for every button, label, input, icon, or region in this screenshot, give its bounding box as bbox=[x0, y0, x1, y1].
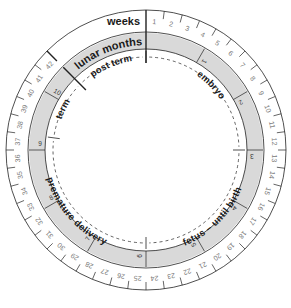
week-tick bbox=[251, 230, 257, 235]
week-label: 42 bbox=[44, 60, 54, 71]
week-tick bbox=[25, 216, 32, 220]
phase-separator bbox=[48, 137, 60, 139]
week-tick bbox=[268, 96, 275, 99]
week-tick bbox=[35, 230, 41, 235]
week-label: 24 bbox=[150, 275, 158, 283]
week-tick bbox=[35, 65, 41, 70]
week-tick bbox=[110, 278, 112, 286]
week-label: 23 bbox=[166, 272, 175, 280]
week-tick bbox=[239, 51, 245, 57]
week-label: 22 bbox=[182, 267, 192, 276]
week-label: 4 bbox=[200, 31, 207, 39]
week-label: 25 bbox=[133, 275, 141, 283]
pregnancy-wheel-diagram: 1234567891011121314151617181920212223242… bbox=[0, 0, 291, 308]
phase-arcs: embryofetus – until birthpremature deliv… bbox=[45, 51, 245, 249]
week-tick bbox=[92, 272, 95, 279]
week-tick bbox=[17, 96, 24, 99]
week-tick bbox=[260, 80, 267, 84]
month-label: 3 bbox=[250, 153, 254, 160]
week-label: 33 bbox=[26, 202, 36, 212]
week-label: 40 bbox=[26, 88, 36, 98]
month-label: 9 bbox=[38, 140, 42, 147]
week-tick bbox=[226, 255, 231, 261]
week-tick bbox=[128, 281, 129, 289]
week-tick bbox=[212, 29, 216, 36]
week-label: 16 bbox=[256, 202, 266, 212]
week-tick bbox=[61, 255, 66, 261]
week-tick bbox=[268, 201, 275, 204]
week-label: 37 bbox=[14, 137, 22, 145]
week-tick bbox=[274, 114, 282, 116]
week-label: 11 bbox=[268, 121, 276, 130]
week-label: 12 bbox=[271, 137, 279, 145]
week-label: 28 bbox=[84, 260, 94, 270]
week-tick bbox=[274, 184, 282, 186]
week-label: 5 bbox=[214, 39, 221, 47]
month-label: 6 bbox=[136, 254, 143, 258]
week-label: 6 bbox=[227, 49, 235, 57]
week-label: 7 bbox=[239, 61, 247, 69]
week-label: 14 bbox=[268, 171, 276, 180]
week-label: 21 bbox=[198, 261, 208, 271]
week-label: 13 bbox=[271, 154, 279, 162]
week-tick bbox=[163, 11, 164, 19]
week-tick bbox=[163, 281, 164, 289]
week-tick bbox=[11, 184, 19, 186]
week-tick bbox=[277, 132, 285, 133]
week-tick bbox=[260, 216, 267, 220]
week-tick bbox=[47, 243, 53, 249]
week-tick bbox=[239, 243, 245, 249]
week-tick bbox=[277, 167, 285, 168]
week-tick bbox=[76, 264, 80, 271]
week-tick bbox=[180, 15, 182, 23]
week-tick bbox=[7, 132, 15, 133]
week-label: 19 bbox=[226, 242, 237, 252]
week-label: 39 bbox=[20, 104, 29, 114]
wheel-svg: 1234567891011121314151617181920212223242… bbox=[0, 0, 291, 308]
week-label: 27 bbox=[100, 267, 110, 276]
week-tick bbox=[212, 264, 216, 271]
week-label: 34 bbox=[20, 186, 29, 196]
week-label: 31 bbox=[44, 230, 54, 241]
week-tick bbox=[17, 201, 24, 204]
week-tick bbox=[197, 272, 200, 279]
week-label: 20 bbox=[212, 252, 222, 262]
week-label: 1 bbox=[152, 18, 156, 25]
week-label: 3 bbox=[184, 24, 190, 32]
week-tick bbox=[11, 114, 19, 116]
week-tick bbox=[7, 167, 15, 168]
week-label: 30 bbox=[56, 241, 67, 251]
week-label: 26 bbox=[116, 272, 125, 280]
week-tick bbox=[180, 278, 182, 286]
week-label: 15 bbox=[263, 187, 272, 197]
weeks-title: weeks bbox=[106, 15, 140, 27]
week-label: 2 bbox=[169, 20, 174, 28]
week-label: 38 bbox=[16, 120, 24, 129]
week-label: 41 bbox=[34, 73, 44, 83]
week-tick bbox=[251, 65, 257, 70]
week-label: 17 bbox=[248, 216, 258, 226]
week-label: 10 bbox=[263, 104, 272, 114]
week-label: 35 bbox=[16, 170, 24, 179]
week-label: 36 bbox=[14, 154, 22, 162]
week-label: 29 bbox=[69, 252, 79, 262]
week-label: 9 bbox=[257, 90, 265, 97]
week-tick bbox=[25, 80, 32, 84]
week-label: 18 bbox=[237, 230, 247, 241]
week-label: 8 bbox=[249, 75, 257, 82]
week-tick bbox=[226, 39, 231, 45]
week-label: 32 bbox=[34, 216, 44, 226]
week-tick bbox=[197, 21, 200, 28]
